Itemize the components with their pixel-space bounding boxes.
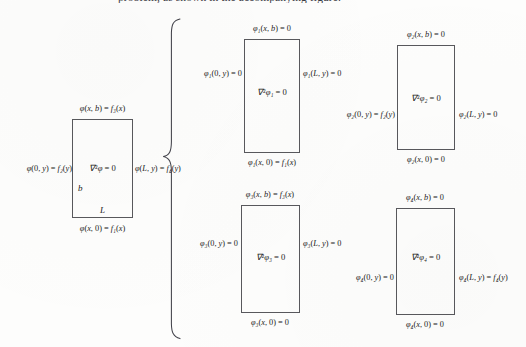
- phi1-right-bc: φ₁(L, y) = 0: [303, 69, 341, 78]
- phi3-left-bc: φ₃(0, y) = 0: [166, 239, 238, 248]
- phi3-right-bc: φ₃(L, y) = 0: [303, 239, 341, 248]
- phi4-left-bc: φ₄(0, y) = 0: [318, 273, 394, 282]
- original-height-label: b: [78, 184, 83, 194]
- phi3-interior-equation: ∇²φ₃ = 0: [241, 253, 300, 262]
- phi2-bottom-bc: φ₂(x, 0) = 0: [393, 155, 459, 164]
- original-width-label: L: [72, 206, 133, 216]
- phi4-interior-equation: ∇²φ₄ = 0: [396, 253, 455, 262]
- phi2-interior-equation: ∇²φ₂ = 0: [397, 94, 455, 103]
- phi2-top-bc: φ₂(x, b) = 0: [393, 30, 459, 39]
- page-running-text: problem, as shown in the accompanying fi…: [118, 0, 518, 3]
- phi2-left-bc: φ₂(0, y) = f₂(y): [318, 110, 395, 119]
- phi1-interior-equation: ∇²φ₁ = 0: [244, 88, 300, 97]
- equals-sum-brace: [160, 16, 182, 342]
- original-right-bc: φ(L, y) = f₄(y): [135, 164, 181, 173]
- phi4-bottom-bc: φ₄(x, 0) = 0: [392, 320, 458, 329]
- phi1-left-bc: φ₁(0, y) = 0: [170, 69, 242, 78]
- phi3-top-bc: φ₃(x, b) = f₃(x): [232, 190, 308, 199]
- phi3-bottom-bc: φ₃(x, 0) = 0: [237, 318, 303, 327]
- original-interior-equation: ∇²φ = 0: [72, 164, 133, 173]
- original-left-bc: φ(0, y) = f₂(y): [0, 164, 72, 173]
- original-top-bc: φ(x, b) = f₃(x): [72, 104, 133, 113]
- phi1-bottom-bc: φ₁(x, 0) = f₁(x): [236, 158, 308, 167]
- figure-canvas: problem, as shown in the accompanying fi…: [0, 0, 526, 347]
- phi4-top-bc: φ₄(x, b) = 0: [392, 193, 458, 202]
- phi1-top-bc: φ₁(x, b) = 0: [239, 24, 305, 33]
- original-bottom-bc: φ(x, 0) = f₁(x): [62, 224, 143, 233]
- phi4-right-bc: φ₄(L, y) = f₄(y): [459, 273, 508, 282]
- phi2-right-bc: φ₂(L, y) = 0: [459, 110, 497, 119]
